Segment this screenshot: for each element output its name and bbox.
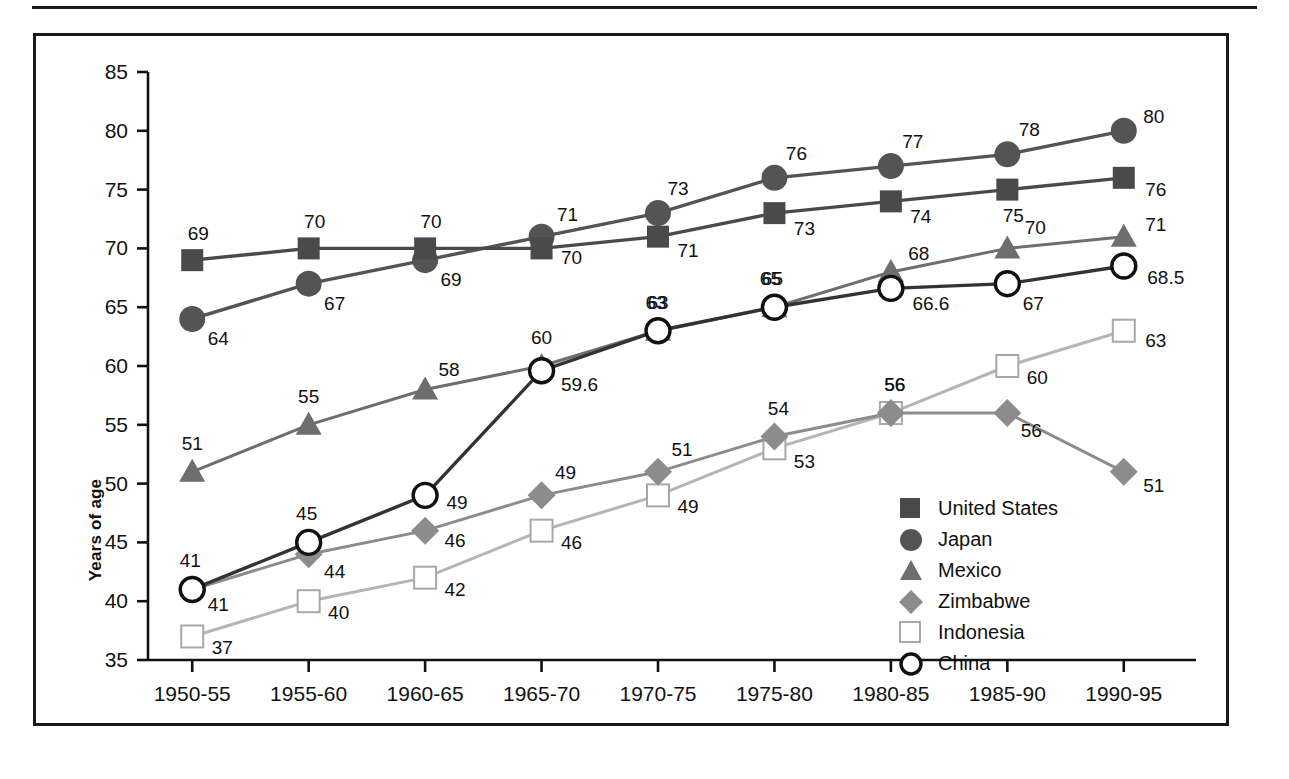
x-tick-label: 1955-60 <box>270 682 347 706</box>
data-point-value-label: 76 <box>1145 179 1166 201</box>
data-point-value-label: 51 <box>1143 475 1164 497</box>
legend-item-zimbabwe[interactable]: Zimbabwe <box>898 586 1058 617</box>
data-point-marker <box>181 249 203 271</box>
data-point-marker <box>414 567 436 589</box>
data-point-marker <box>646 319 670 343</box>
data-point-marker <box>411 517 439 545</box>
data-point-marker <box>994 141 1020 167</box>
series-line <box>192 237 1124 472</box>
data-point-value-label: 70 <box>304 211 325 233</box>
data-point-value-label: 49 <box>677 496 698 518</box>
data-point-value-label: 73 <box>667 178 688 200</box>
data-point-marker <box>761 165 787 191</box>
data-point-value-label: 49 <box>447 492 468 514</box>
y-tick-label: 50 <box>80 472 128 496</box>
data-point-value-label: 77 <box>902 131 923 153</box>
data-point-value-label: 64 <box>208 328 229 350</box>
data-point-marker <box>531 237 553 259</box>
data-point-value-label: 69 <box>188 223 209 245</box>
legend-item-japan[interactable]: Japan <box>898 524 1058 555</box>
data-point-marker <box>647 226 669 248</box>
data-point-value-label: 63 <box>1145 330 1166 352</box>
data-point-marker <box>1113 320 1135 342</box>
data-point-marker <box>900 622 920 642</box>
data-point-value-label: 70 <box>561 247 582 269</box>
legend-item-mexico[interactable]: Mexico <box>898 555 1058 586</box>
data-point-value-label: 46 <box>445 530 466 552</box>
data-point-marker <box>762 295 786 319</box>
data-point-value-label: 41 <box>208 594 229 616</box>
legend-item-label: Japan <box>938 528 993 551</box>
data-point-value-label: 53 <box>794 451 815 473</box>
data-point-value-label: 67 <box>1023 293 1044 315</box>
legend-item-china[interactable]: China <box>898 648 1058 679</box>
x-tick-label: 1970-75 <box>619 682 696 706</box>
data-point-marker <box>900 560 922 580</box>
data-point-marker <box>531 520 553 542</box>
y-tick-label: 40 <box>80 589 128 613</box>
data-point-value-label: 41 <box>180 550 201 572</box>
data-point-marker <box>647 484 669 506</box>
data-point-value-label: 37 <box>212 637 233 659</box>
data-point-marker <box>298 237 320 259</box>
data-point-value-label: 76 <box>786 143 807 165</box>
data-point-value-label: 56 <box>884 374 905 396</box>
legend-item-united-states[interactable]: United States <box>898 493 1058 524</box>
data-point-marker <box>298 590 320 612</box>
data-point-value-label: 40 <box>328 602 349 624</box>
y-tick-label: 70 <box>80 236 128 260</box>
data-point-value-label: 55 <box>298 386 319 408</box>
legend-filled-square-icon <box>898 496 924 522</box>
data-point-marker <box>878 153 904 179</box>
data-point-value-label: 51 <box>182 433 203 455</box>
y-tick-label: 55 <box>80 413 128 437</box>
legend-filled-circle-icon <box>898 527 924 553</box>
data-point-marker <box>530 359 554 383</box>
legend-open-circle-icon <box>898 651 924 677</box>
data-point-marker <box>1113 167 1135 189</box>
x-tick-label: 1950-55 <box>154 682 231 706</box>
data-point-marker <box>900 498 920 518</box>
data-point-marker <box>297 530 321 554</box>
data-point-value-label: 68 <box>908 243 929 265</box>
data-point-marker <box>993 399 1021 427</box>
data-point-marker <box>645 200 671 226</box>
legend-item-label: Zimbabwe <box>938 590 1030 613</box>
data-point-value-label: 78 <box>1019 119 1040 141</box>
legend-item-indonesia[interactable]: Indonesia <box>898 617 1058 648</box>
data-point-value-label: 80 <box>1143 106 1164 128</box>
data-point-marker <box>880 190 902 212</box>
chart-legend: United StatesJapanMexicoZimbabweIndonesi… <box>898 493 1058 679</box>
legend-filled-triangle-icon <box>898 558 924 584</box>
data-point-marker <box>413 483 437 507</box>
data-point-marker <box>179 306 205 332</box>
y-tick-label: 65 <box>80 295 128 319</box>
data-point-marker <box>296 271 322 297</box>
data-point-value-label: 51 <box>671 439 692 461</box>
x-tick-label: 1980-85 <box>852 682 929 706</box>
data-point-marker <box>644 458 672 486</box>
y-tick-label: 80 <box>80 119 128 143</box>
y-tick-label: 85 <box>80 60 128 84</box>
data-point-marker <box>1111 118 1137 144</box>
data-point-value-label: 65 <box>762 268 783 290</box>
data-point-marker <box>763 202 785 224</box>
data-point-value-label: 54 <box>768 398 789 420</box>
data-point-marker <box>180 577 204 601</box>
data-point-marker <box>995 272 1019 296</box>
data-point-value-label: 60 <box>531 327 552 349</box>
x-tick-label: 1960-65 <box>387 682 464 706</box>
data-point-marker <box>528 481 556 509</box>
data-point-value-label: 74 <box>910 206 931 228</box>
data-point-marker <box>901 654 921 674</box>
data-point-value-label: 71 <box>677 240 698 262</box>
life-expectancy-line-chart <box>0 0 1289 779</box>
data-point-value-label: 42 <box>445 579 466 601</box>
data-point-value-label: 58 <box>439 359 460 381</box>
x-tick-label: 1975-80 <box>736 682 813 706</box>
data-point-marker <box>1110 458 1138 486</box>
data-point-marker <box>414 237 436 259</box>
data-point-marker <box>996 179 1018 201</box>
legend-item-label: China <box>938 652 990 675</box>
data-point-marker <box>1112 254 1136 278</box>
